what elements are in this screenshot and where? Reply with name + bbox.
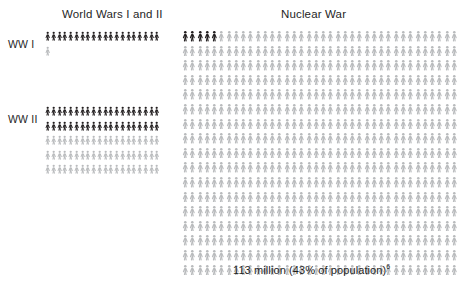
figure-remaining <box>385 89 392 100</box>
figure-remaining <box>313 75 320 86</box>
figure-remaining <box>233 104 240 115</box>
figure-remaining <box>378 60 385 71</box>
figure-remaining <box>284 46 291 57</box>
figure-remaining <box>378 119 385 130</box>
figure-remaining <box>400 148 407 159</box>
pictogram-row <box>45 106 160 121</box>
figure-remaining <box>182 221 189 232</box>
figure-remaining <box>400 75 407 86</box>
figure-remaining <box>400 250 407 261</box>
figure-remaining <box>226 148 233 159</box>
figure-remaining <box>356 148 363 159</box>
figure-remaining <box>422 60 429 71</box>
figure-remaining <box>422 104 429 115</box>
figure-remaining <box>320 250 327 261</box>
figure-highlighted <box>211 31 218 42</box>
figure-remaining <box>269 75 276 86</box>
figure-remaining <box>197 221 204 232</box>
figure-highlighted <box>182 31 189 42</box>
figure-remaining <box>218 89 225 100</box>
figure-remaining <box>204 250 211 261</box>
figure-remaining <box>306 46 313 57</box>
figure-remaining <box>247 104 254 115</box>
figure-remaining <box>444 133 451 144</box>
figure-remaining <box>298 221 305 232</box>
figure-remaining <box>189 265 196 276</box>
figure-remaining <box>276 221 283 232</box>
figure-remaining <box>320 192 327 203</box>
figure-remaining <box>436 250 443 261</box>
figure-remaining <box>240 31 247 42</box>
figure-remaining <box>385 60 392 71</box>
figure-remaining <box>255 250 262 261</box>
figure-remaining <box>342 46 349 57</box>
figure-remaining <box>349 104 356 115</box>
figure-remaining <box>378 89 385 100</box>
figure-remaining <box>269 221 276 232</box>
figure-remaining <box>371 89 378 100</box>
figure-remaining <box>436 133 443 144</box>
figure-remaining <box>182 235 189 246</box>
figure-remaining <box>342 177 349 188</box>
figure-remaining <box>385 75 392 86</box>
figure-remaining <box>451 192 458 203</box>
figure-remaining <box>291 104 298 115</box>
figure-remaining <box>269 46 276 57</box>
figure-remaining <box>378 31 385 42</box>
figure-remaining <box>218 75 225 86</box>
figure-remaining <box>313 192 320 203</box>
figure-remaining <box>204 60 211 71</box>
figure-remaining <box>385 206 392 217</box>
figure-remaining <box>436 265 443 276</box>
figure-remaining <box>233 148 240 159</box>
figure-remaining <box>349 75 356 86</box>
figure-remaining <box>451 119 458 130</box>
figure-remaining <box>371 119 378 130</box>
figure-remaining <box>327 60 334 71</box>
figure-remaining <box>342 250 349 261</box>
figure-remaining <box>269 60 276 71</box>
figure-remaining <box>407 119 414 130</box>
figure-remaining <box>247 192 254 203</box>
figure-remaining <box>298 60 305 71</box>
figure-remaining <box>276 89 283 100</box>
figure-remaining <box>291 192 298 203</box>
figure-remaining <box>247 148 254 159</box>
pictogram-row <box>45 150 160 165</box>
figure-remaining <box>255 192 262 203</box>
figure-remaining <box>182 206 189 217</box>
figure-remaining <box>444 104 451 115</box>
figure-remaining <box>313 60 320 71</box>
figure-remaining <box>189 104 196 115</box>
figure-remaining <box>182 75 189 86</box>
figure-remaining <box>335 89 342 100</box>
figure-remaining <box>262 235 269 246</box>
figure-remaining <box>320 104 327 115</box>
figure-remaining <box>451 75 458 86</box>
figure-remaining <box>327 162 334 173</box>
figure-remaining <box>247 60 254 71</box>
figure-remaining <box>298 133 305 144</box>
figure-remaining <box>197 265 204 276</box>
figure-remaining <box>298 250 305 261</box>
figure-remaining <box>444 119 451 130</box>
figure-remaining <box>335 60 342 71</box>
figure-remaining <box>415 221 422 232</box>
figure-highlighted <box>197 31 204 42</box>
figure-remaining <box>422 119 429 130</box>
figure-remaining <box>211 265 218 276</box>
figure-remaining <box>189 192 196 203</box>
figure-remaining <box>335 250 342 261</box>
figure-remaining <box>342 192 349 203</box>
figure-remaining <box>342 31 349 42</box>
figure-remaining <box>335 31 342 42</box>
figure-remaining <box>276 60 283 71</box>
figure-remaining <box>407 206 414 217</box>
figure-remaining <box>327 89 334 100</box>
figure-remaining <box>400 235 407 246</box>
figure-remaining <box>255 46 262 57</box>
figure-remaining <box>313 250 320 261</box>
figure-remaining <box>262 89 269 100</box>
figure-remaining <box>349 206 356 217</box>
figure-remaining <box>444 206 451 217</box>
